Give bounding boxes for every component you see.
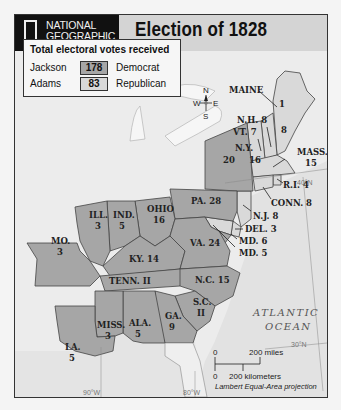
label-md-adams: MD. 6: [239, 236, 267, 246]
label-ill-votes: 3: [95, 221, 101, 231]
state-ri: [273, 175, 281, 185]
label-vt: VT. 7: [232, 127, 257, 137]
label-ky: KY. 14: [129, 254, 159, 264]
label-miss: MISS.: [97, 320, 125, 330]
label-tenn: TENN. II: [109, 276, 151, 286]
label-ill: ILL.: [89, 210, 108, 220]
legend-votes-box: 83: [80, 77, 108, 91]
compass-s: S: [203, 112, 208, 121]
label-ny: N.Y.: [235, 143, 253, 153]
legend-party: Republican: [116, 78, 166, 89]
legend-candidate: Adams: [30, 78, 75, 89]
label-nj: N.J. 8: [253, 211, 278, 221]
label-ohio: OHIO: [147, 204, 174, 214]
label-ala-votes: 5: [135, 329, 141, 339]
label-mo: MO.: [51, 236, 70, 246]
map-canvas: 40°N 30°N 90°W 80°W N S E W: [15, 51, 327, 397]
label-mo-votes: 3: [57, 247, 63, 257]
label-ri: R.I. 4: [283, 180, 309, 190]
label-ala: ALA.: [128, 318, 151, 328]
label-va: VA. 24: [189, 238, 220, 248]
label-ny-votes-b: 16: [249, 155, 261, 165]
label-maine: MAINE: [229, 85, 264, 95]
label-ind-votes: 5: [119, 221, 125, 231]
label-del: DEL. 3: [245, 224, 277, 234]
lat-30n-label: 30°N: [291, 341, 307, 348]
legend-title: Total electoral votes received: [30, 44, 169, 55]
label-ny-votes-a: 20: [223, 155, 235, 165]
label-mass: MASS.: [297, 147, 327, 157]
scale-km: 200 kilometers: [229, 372, 281, 381]
projection-label: Lambert Equal-Area projection: [215, 382, 317, 391]
label-pa: PA. 28: [191, 196, 221, 206]
scale-zero-km: 0: [213, 372, 218, 381]
label-ind: IND.: [113, 210, 135, 220]
ocean-label-line2: OCEAN: [265, 321, 312, 332]
label-miss-votes: 3: [105, 331, 111, 341]
label-ga: GA.: [165, 311, 182, 321]
legend-votes-box: 178: [80, 61, 108, 75]
label-sc: S.C.: [193, 297, 211, 307]
compass-w: W: [193, 99, 201, 108]
label-conn: CONN. 8: [271, 198, 312, 208]
legend-party: Democrat: [116, 62, 159, 73]
lon-80w-label: 80°W: [183, 389, 201, 396]
map-title: Election of 1828: [135, 18, 267, 41]
compass-e: E: [213, 99, 218, 108]
label-maine-split: 1: [279, 99, 285, 109]
legend-candidate: Jackson: [30, 62, 75, 73]
scale-miles: 200 miles: [249, 348, 283, 357]
lon-90w-label: 90°W: [83, 389, 101, 396]
ocean-label-line1: ATLANTIC: [252, 307, 319, 318]
label-sc-votes: II: [197, 308, 205, 318]
label-nh: N.H. 8: [237, 115, 267, 125]
label-nc: N.C. 15: [195, 275, 230, 285]
label-ohio-votes: 16: [153, 215, 165, 225]
label-la-votes: 5: [69, 353, 75, 363]
label-ga-votes: 9: [169, 322, 175, 332]
label-mass-votes: 15: [305, 158, 317, 168]
compass-n: N: [203, 86, 209, 95]
label-md-jackson: MD. 5: [239, 248, 267, 258]
map-frame: NATIONAL GEOGRAPHIC Election of 1828: [14, 14, 328, 398]
label-la: LA.: [65, 342, 81, 352]
label-maine-votes: 8: [281, 125, 287, 135]
legend: Total electoral votes received Jackson 1…: [23, 39, 181, 97]
scale-zero-miles: 0: [213, 348, 218, 357]
